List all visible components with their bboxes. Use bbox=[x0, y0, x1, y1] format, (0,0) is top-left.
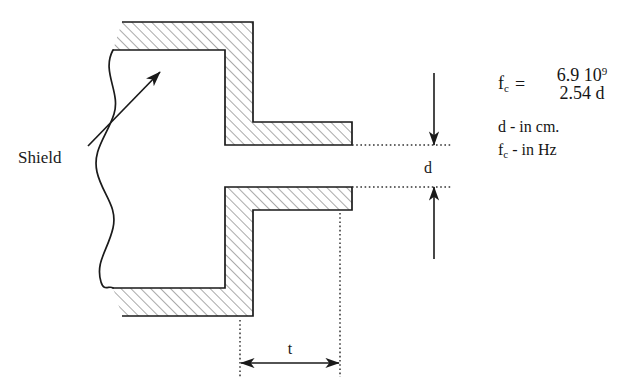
shield-cross-section-drawing: Shield d t bbox=[0, 0, 636, 391]
formula-equals: = bbox=[515, 75, 525, 93]
unit-line-d: d - in cm. bbox=[498, 115, 633, 138]
cutoff-frequency-formula: fc = 6.9 109 2.54 d d - in cm. fc - in H… bbox=[498, 66, 633, 163]
gap-dimension-label: d bbox=[424, 159, 432, 176]
formula-numerator-exponent: 9 bbox=[602, 65, 608, 77]
formula-fraction: 6.9 109 2.54 d bbox=[531, 66, 633, 102]
shield-label: Shield bbox=[18, 148, 62, 167]
formula-units: d - in cm. fc - in Hz bbox=[498, 115, 633, 163]
diagram-canvas: Shield d t fc = 6.9 109 2.54 d d - in cm… bbox=[0, 0, 636, 391]
shield-leader-arrow bbox=[88, 72, 160, 146]
formula-denominator: 2.54 d bbox=[557, 82, 608, 103]
thickness-dimension-label: t bbox=[288, 340, 293, 357]
formula-equation: fc = 6.9 109 2.54 d bbox=[498, 66, 633, 102]
unit-line-fc: fc - in Hz bbox=[498, 138, 633, 163]
formula-lhs: fc bbox=[498, 74, 509, 94]
formula-lhs-subscript: c bbox=[504, 82, 509, 94]
unit-fc-rest: - in Hz bbox=[508, 141, 556, 158]
break-line-wavy bbox=[96, 50, 116, 288]
shield-lower-body bbox=[113, 187, 352, 316]
